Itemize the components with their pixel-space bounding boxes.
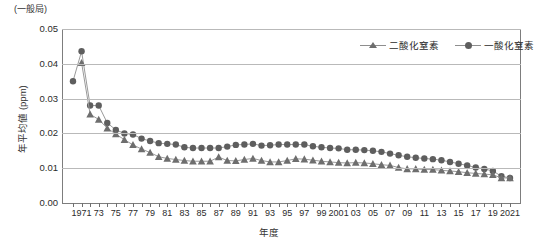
x-tick-mark	[287, 203, 288, 207]
x-tick-label: 17	[471, 208, 481, 218]
x-tick-mark	[330, 203, 331, 207]
x-tick-mark	[73, 203, 74, 207]
chart-legend: 二酸化窒素 一酸化窒素	[360, 38, 534, 52]
x-tick-mark	[510, 203, 511, 207]
x-tick-mark	[364, 203, 365, 207]
data-point-triangle	[155, 153, 163, 160]
x-tick-mark	[176, 203, 177, 207]
y-tick-label: 0.04	[2, 59, 58, 69]
x-tick-mark	[82, 203, 83, 207]
x-tick-label: 91	[248, 208, 258, 218]
data-point-circle	[70, 78, 76, 84]
data-point-circle	[344, 147, 350, 153]
data-point-triangle	[129, 141, 137, 148]
x-tick-label: 73	[94, 208, 104, 218]
x-tick-mark	[467, 203, 468, 207]
x-tick-mark	[167, 203, 168, 207]
data-point-circle	[250, 141, 256, 147]
x-tick-label: 2021	[500, 208, 520, 218]
x-tick-mark	[390, 203, 391, 207]
x-tick-mark	[99, 203, 100, 207]
x-tick-label: 13	[436, 208, 446, 218]
data-point-circle	[301, 141, 307, 147]
data-point-circle	[335, 145, 341, 151]
y-tick-label: 0.02	[2, 128, 58, 138]
data-point-circle	[173, 141, 179, 147]
x-tick-label: 87	[214, 208, 224, 218]
x-tick-mark	[210, 203, 211, 207]
data-point-triangle	[146, 149, 154, 156]
x-tick-mark	[116, 203, 117, 207]
data-point-circle	[353, 147, 359, 153]
data-point-circle	[190, 145, 196, 151]
data-point-circle	[181, 144, 187, 150]
x-tick-label: 77	[128, 208, 138, 218]
x-tick-label: 11	[420, 208, 429, 218]
data-point-circle	[387, 150, 393, 156]
x-tick-mark	[296, 203, 297, 207]
y-tick-label: 0.05	[2, 24, 58, 34]
x-tick-label: 79	[145, 208, 155, 218]
x-tick-mark	[356, 203, 357, 207]
legend-label-no2: 二酸化窒素	[389, 38, 439, 52]
gridline	[62, 29, 521, 30]
x-tick-mark	[253, 203, 254, 207]
data-point-circle	[275, 141, 281, 147]
plot-area	[62, 29, 521, 203]
legend-label-no: 一酸化窒素	[484, 38, 534, 52]
data-point-circle	[455, 160, 461, 166]
x-tick-mark	[236, 203, 237, 207]
data-point-circle	[361, 147, 367, 153]
data-point-circle	[155, 140, 161, 146]
x-tick-mark	[321, 203, 322, 207]
data-point-triangle	[249, 155, 257, 162]
x-tick-mark	[184, 203, 185, 207]
data-point-circle	[318, 144, 324, 150]
x-tick-mark	[501, 203, 502, 207]
x-tick-label: 75	[111, 208, 121, 218]
data-point-circle	[258, 142, 264, 148]
x-tick-mark	[484, 203, 485, 207]
y-tick-label: 0.00	[2, 198, 58, 208]
x-tick-label: 15	[454, 208, 464, 218]
data-point-circle	[78, 48, 84, 54]
x-tick-mark	[304, 203, 305, 207]
x-tick-mark	[339, 203, 340, 207]
x-tick-mark	[227, 203, 228, 207]
x-tick-mark	[262, 203, 263, 207]
data-point-circle	[413, 155, 419, 161]
legend-item-no: 一酸化窒素	[455, 38, 534, 52]
y-tick-label: 0.03	[2, 94, 58, 104]
data-point-triangle	[86, 110, 94, 117]
data-point-circle	[215, 145, 221, 151]
data-point-circle	[96, 102, 102, 108]
data-point-triangle	[121, 136, 129, 143]
x-tick-label: 95	[282, 208, 292, 218]
x-tick-mark	[347, 203, 348, 207]
x-tick-mark	[107, 203, 108, 207]
y-axis-tick-labels: 0.050.040.030.020.010.00	[0, 0, 58, 242]
x-tick-mark	[459, 203, 460, 207]
data-point-circle	[130, 131, 136, 137]
x-tick-label: 83	[179, 208, 189, 218]
series-layer	[62, 29, 521, 203]
x-tick-label: 19	[488, 208, 498, 218]
x-tick-label: 2001	[329, 208, 349, 218]
x-tick-mark	[476, 203, 477, 207]
x-tick-mark	[450, 203, 451, 207]
x-tick-label: 97	[299, 208, 309, 218]
x-tick-mark	[202, 203, 203, 207]
series-line	[73, 51, 510, 178]
x-tick-mark	[219, 203, 220, 207]
triangle-marker-icon	[360, 40, 386, 50]
data-point-circle	[293, 141, 299, 147]
x-tick-label: 07	[385, 208, 395, 218]
x-tick-mark	[373, 203, 374, 207]
legend-item-no2: 二酸化窒素	[360, 38, 439, 52]
gridline	[62, 133, 521, 134]
data-point-triangle	[215, 153, 223, 160]
x-tick-label: 99	[316, 208, 326, 218]
x-tick-mark	[159, 203, 160, 207]
x-tick-mark	[133, 203, 134, 207]
data-point-circle	[224, 143, 230, 149]
